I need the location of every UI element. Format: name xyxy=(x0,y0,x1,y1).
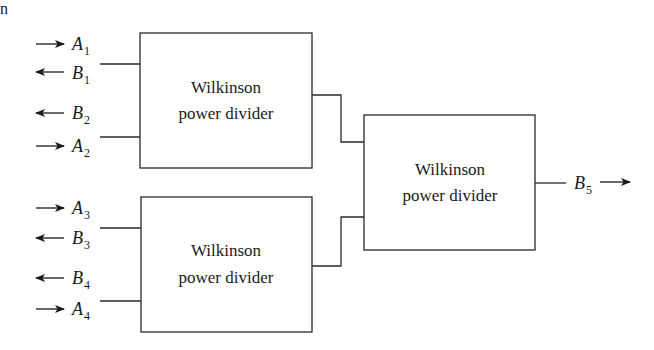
wilkinson-network-diagram: n Wilkinson power divider Wilkinson powe… xyxy=(0,0,654,350)
bottom-divider-box xyxy=(141,197,312,332)
combiner-divider-box xyxy=(364,115,535,250)
port-label-b1: B1 xyxy=(72,63,90,87)
port-label-a4: A4 xyxy=(71,299,90,323)
top-divider-label-line2: power divider xyxy=(179,104,274,123)
port-label-b5: B5 xyxy=(574,173,592,197)
top-divider-label-line1: Wilkinson xyxy=(191,78,262,97)
port-label-b3: B3 xyxy=(72,228,90,252)
combiner-label-line1: Wilkinson xyxy=(415,160,486,179)
port-label-a3: A3 xyxy=(71,198,90,222)
top-divider-box xyxy=(140,33,312,168)
top-to-combiner-wire xyxy=(312,95,364,142)
bottom-divider-label-line2: power divider xyxy=(179,268,274,287)
bottom-divider-block: Wilkinson power divider xyxy=(100,197,364,332)
cropped-text-fragment: n xyxy=(0,0,8,17)
top-divider-block: Wilkinson power divider xyxy=(100,33,364,168)
bottom-to-combiner-wire xyxy=(312,217,364,266)
combiner-divider-block: Wilkinson power divider xyxy=(364,115,566,250)
combiner-label-line2: power divider xyxy=(403,186,498,205)
port-label-b4: B4 xyxy=(72,268,90,292)
port-label-b2: B2 xyxy=(72,103,90,127)
port-label-a2: A2 xyxy=(71,136,90,160)
port-label-a1: A1 xyxy=(71,34,90,58)
bottom-divider-label-line1: Wilkinson xyxy=(191,241,262,260)
